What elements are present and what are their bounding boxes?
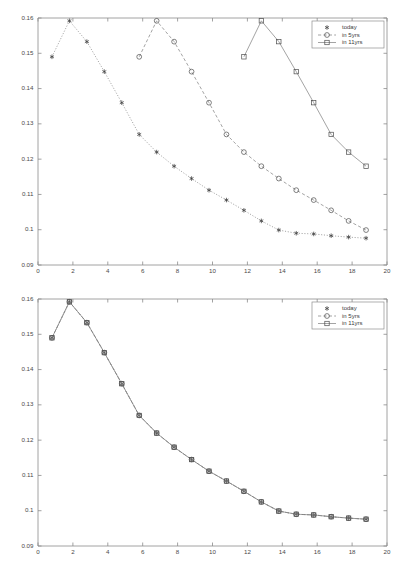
y-tick-label: 0.12 [21, 436, 34, 443]
circle-marker [276, 176, 281, 181]
bottom-chart-svg: 0.090.10.110.120.130.140.150.16024681012… [0, 281, 404, 562]
x-tick-label: 2 [71, 267, 75, 274]
legend[interactable]: todayin 5yrsin 11yrs [312, 302, 384, 329]
x-tick-label: 16 [314, 267, 321, 274]
x-tick-label: 0 [36, 267, 40, 274]
series-in-5yrs [50, 299, 369, 521]
asterisk-marker [50, 55, 54, 60]
asterisk-marker [224, 198, 228, 203]
y-tick-label: 0.11 [22, 190, 34, 197]
y-tick-label: 0.1 [25, 225, 34, 232]
y-tick-label: 0.13 [21, 400, 34, 407]
series-today [50, 300, 368, 522]
asterisk-marker [137, 132, 141, 137]
x-tick-label: 4 [106, 267, 110, 274]
x-tick-label: 10 [209, 267, 216, 274]
y-tick-label: 0.09 [21, 261, 34, 268]
series-in-11yrs [50, 300, 368, 522]
x-tick-label: 8 [176, 267, 180, 274]
y-tick-label: 0.09 [21, 542, 34, 549]
asterisk-marker [312, 232, 316, 237]
asterisk-marker [364, 236, 368, 241]
y-tick-label: 0.12 [21, 155, 34, 162]
x-tick-label: 14 [279, 267, 286, 274]
x-tick-label: 2 [71, 548, 75, 555]
y-tick-label: 0.14 [21, 365, 34, 372]
legend-label: in 11yrs [342, 320, 363, 326]
x-tick-label: 18 [349, 548, 356, 555]
chart-panel-top: 0.090.10.110.120.130.140.150.16024681012… [0, 0, 404, 281]
legend-label: today [342, 24, 357, 30]
y-tick-label: 0.14 [21, 84, 34, 91]
x-tick-label: 20 [384, 548, 391, 555]
series-today [50, 19, 368, 241]
x-tick-label: 0 [36, 548, 40, 555]
x-tick-label: 10 [209, 548, 216, 555]
asterisk-marker [207, 188, 211, 193]
asterisk-marker [120, 100, 124, 105]
x-tick-label: 20 [384, 267, 391, 274]
asterisk-marker [242, 208, 246, 213]
series-line [52, 302, 366, 519]
legend-label: in 11yrs [342, 39, 363, 45]
asterisk-marker [259, 219, 263, 224]
y-tick-label: 0.13 [21, 119, 34, 126]
y-tick-label: 0.16 [21, 14, 34, 21]
asterisk-marker [294, 231, 298, 236]
circle-marker [137, 54, 142, 59]
x-tick-label: 8 [176, 548, 180, 555]
circle-marker [364, 228, 369, 233]
x-tick-label: 12 [244, 548, 251, 555]
axes-frame [38, 18, 387, 265]
circle-marker [294, 188, 299, 193]
series-line [52, 21, 366, 238]
asterisk-marker [172, 164, 176, 169]
x-tick-label: 6 [141, 267, 145, 274]
x-tick-label: 12 [244, 267, 251, 274]
figure-container: 0.090.10.110.120.130.140.150.16024681012… [0, 0, 404, 562]
circle-marker [189, 69, 194, 74]
square-marker [242, 55, 246, 59]
legend-label: in 5yrs [342, 32, 360, 38]
series-line [52, 302, 366, 519]
y-tick-label: 0.16 [21, 295, 34, 302]
circle-marker [242, 150, 247, 155]
y-tick-label: 0.11 [22, 471, 34, 478]
y-tick-label: 0.15 [21, 49, 34, 56]
series-in-5yrs [137, 18, 369, 232]
axes-frame [38, 299, 387, 546]
legend-label: today [342, 305, 357, 311]
asterisk-marker [190, 176, 194, 181]
series-line [52, 302, 366, 519]
asterisk-marker [102, 69, 106, 74]
x-tick-label: 4 [106, 548, 110, 555]
x-tick-label: 14 [279, 548, 286, 555]
chart-panel-bottom: 0.090.10.110.120.130.140.150.16024681012… [0, 281, 404, 562]
y-tick-label: 0.15 [21, 330, 34, 337]
x-tick-label: 6 [141, 548, 145, 555]
x-tick-label: 18 [349, 267, 356, 274]
circle-marker [259, 164, 264, 169]
legend[interactable]: todayin 5yrsin 11yrs [312, 21, 384, 48]
top-chart-svg: 0.090.10.110.120.130.140.150.16024681012… [0, 0, 404, 281]
x-tick-label: 16 [314, 548, 321, 555]
legend-label: in 5yrs [342, 313, 360, 319]
series-line [139, 21, 366, 230]
y-tick-label: 0.1 [25, 506, 34, 513]
